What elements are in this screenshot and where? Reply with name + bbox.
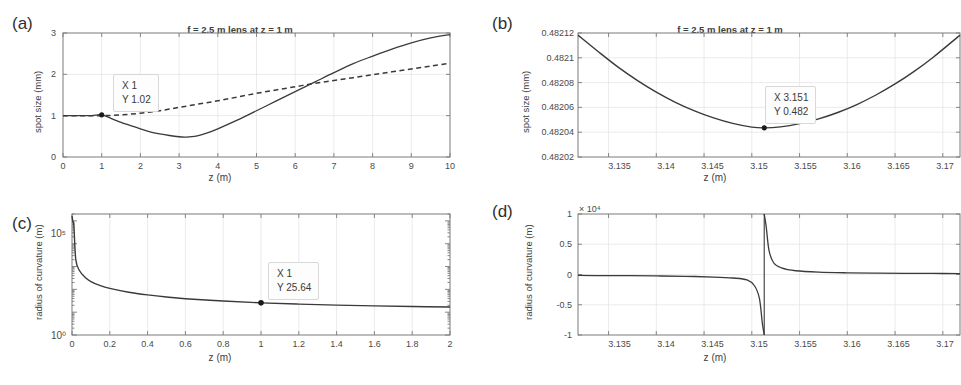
panel-a-datatip-x: X 1 xyxy=(122,79,151,93)
panel-b-datatip-y: Y 0.482 xyxy=(774,105,808,119)
panel-a-plot xyxy=(0,0,480,192)
panel-c: (c) radius of curvature (m) z (m) 10⁰ 10… xyxy=(0,192,480,385)
panel-b-datatip: X 3.151 Y 0.482 xyxy=(765,86,816,124)
panel-b-plot xyxy=(480,0,961,192)
panel-c-datatip: X 1 Y 25.64 xyxy=(268,262,319,300)
panel-d: (d) radius of curvature (m) z (m) × 10⁴ … xyxy=(480,192,961,385)
panel-a-datatip-y: Y 1.02 xyxy=(122,93,151,107)
panel-c-datatip-y: Y 25.64 xyxy=(277,281,311,295)
panel-c-plot xyxy=(0,192,480,385)
panel-a: (a) f = 2.5 m lens at z = 1 m spot size … xyxy=(0,0,480,192)
figure-container: (a) f = 2.5 m lens at z = 1 m spot size … xyxy=(0,0,961,385)
panel-c-datatip-x: X 1 xyxy=(277,267,311,281)
panel-a-datatip: X 1 Y 1.02 xyxy=(113,74,159,112)
panel-d-plot xyxy=(480,192,961,385)
panel-b-datatip-x: X 3.151 xyxy=(774,91,808,105)
panel-b: (b) f = 2.5 m lens at z = 1 m spot size … xyxy=(480,0,961,192)
